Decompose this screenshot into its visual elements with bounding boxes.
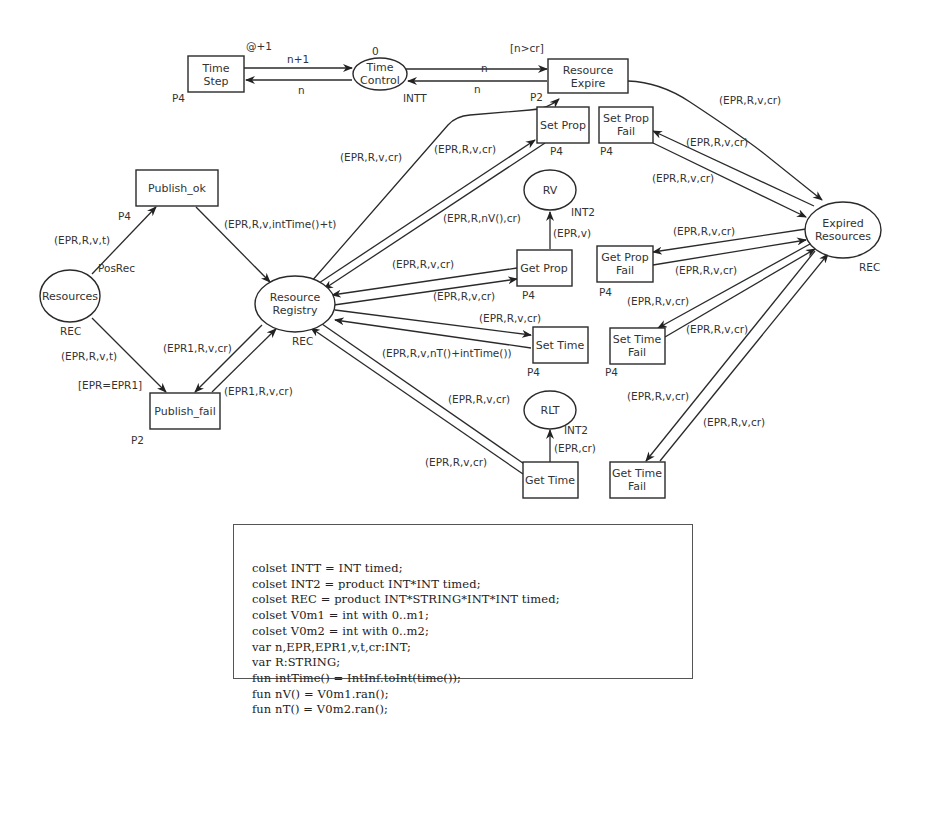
rv-label: RV [543,184,558,197]
arc-label: (EPR,R,v,cr) [652,172,714,184]
arc-label: (EPR,R,v,nT()+intTime()) [382,347,512,359]
arc-publish-fail-to-registry [212,329,276,392]
arc-label: (EPR,R,v,t) [61,350,117,362]
declaration-line: colset INTT = INT timed; [252,561,692,577]
expired-type: REC [859,261,880,273]
get-prop-fail-label: Fail [616,264,634,277]
arc-label: (EPR,R,nV(),cr) [443,212,521,224]
set-prop-fail-priority: P4 [600,145,613,157]
arc-label: (EPR,R,v,cr) [479,312,541,324]
get-prop-label: Get Prop [520,262,568,275]
declaration-line: var R:STRING; [252,655,692,671]
get-time-fail-label: Fail [628,480,646,493]
arc-label: (EPR,R,v,cr) [448,393,510,405]
declarations-box: colset INTT = INT timed; colset INT2 = p… [233,524,693,679]
expired-label: Resources [815,230,871,243]
petri-net-diagram: Time Step Time Control Resource Expire P… [0,0,928,500]
arc-label: (EPR1,R,v,cr) [224,385,293,397]
arc-label: (EPR,R,v,cr) [434,143,496,155]
set-prop-fail-label: Fail [617,125,635,138]
rv-type: INT2 [571,206,595,218]
arc-label: (EPR,R,v,t) [54,234,110,246]
arc-label: (EPR,cr) [554,442,596,454]
arc-get-prop-fail-to-expired [653,240,806,265]
set-prop-label: Set Prop [540,119,586,132]
set-time-fail-label: Set Time [613,333,662,346]
arc-label: (EPR,R,v,cr) [340,151,402,163]
set-time-priority: P4 [527,366,540,378]
set-time-fail-priority: P4 [605,366,618,378]
set-time-fail-label: Fail [628,346,646,359]
arc-label: (EPR,R,v,cr) [675,264,737,276]
get-time-label: Get Time [525,474,575,487]
get-time-fail-label: Get Time [612,467,662,480]
set-prop-fail-label: Set Prop [603,112,649,125]
resources-label: Resources [42,290,98,303]
arc-label: (EPR,R,v,cr) [703,416,765,428]
publish-fail-guard: [EPR=EPR1] [78,379,142,391]
registry-label: Registry [272,304,318,317]
publish-fail-label: Publish_fail [154,405,215,418]
resource-expire-guard: [n>cr] [510,42,544,54]
arc-label: (EPR,R,v,cr) [673,225,735,237]
arc-label: n+1 [287,53,309,65]
arc-label: (EPR,R,v,cr) [686,136,748,148]
arc-label: (EPR,R,v,cr) [719,94,781,106]
arc-label: (EPR,R,v,cr) [627,390,689,402]
declaration-line: colset INT2 = product INT*INT timed; [252,577,692,593]
get-prop-fail-priority: P4 [599,286,612,298]
declaration-line: fun nT() = V0m2.ran(); [252,702,692,718]
publish-fail-priority: P2 [131,434,144,446]
arc-label: (EPR,R,v,cr) [627,295,689,307]
arc-label: (EPR,R,v,cr) [425,456,487,468]
time-control-label: Control [360,74,400,87]
arc-label: PosRec [98,262,135,274]
time-control-label: Time [366,61,394,74]
arc-get-time-fail-to-expired [660,254,828,461]
resource-expire-label: Expire [571,77,606,90]
set-prop-priority: P4 [550,145,563,157]
resource-expire-priority: P2 [530,91,543,103]
arc-label: (EPR,R,v,intTime()+t) [224,218,336,230]
arc-expired-to-get-time-fail [646,251,815,461]
arc-registry-to-publish-fail [195,325,262,392]
registry-type: REC [292,335,313,347]
time-control-type: INTT [403,92,427,104]
time-step-label: Time [202,62,230,75]
arc-set-time-to-registry [335,320,531,348]
arc-label: (EPR,R,v,cr) [686,323,748,335]
resource-expire-label: Resource [563,64,614,77]
get-prop-priority: P4 [522,289,535,301]
arc-label: (EPR,R,v,cr) [433,290,495,302]
arc-label: (EPR1,R,v,cr) [163,342,232,354]
declaration-line: colset REC = product INT*STRING*INT*INT … [252,592,692,608]
time-control-initial: 0 [372,45,379,57]
expired-label: Expired [822,217,864,230]
arc-label: (EPR,v) [553,227,591,239]
set-time-label: Set Time [536,339,585,352]
arc-label: n [474,83,481,95]
get-prop-fail-label: Get Prop [601,251,649,264]
arc-label: n [298,84,305,96]
time-step-priority: P4 [172,92,185,104]
declaration-line: colset V0m1 = int with 0..m1; [252,608,692,624]
arc-label: n [481,62,488,74]
rlt-type: INT2 [564,424,588,436]
declaration-line: colset V0m2 = int with 0..m2; [252,624,692,640]
time-step-delay: @+1 [246,40,272,52]
time-step-label: Step [203,75,228,88]
declaration-line: fun intTime() = IntInf.toInt(time()); [252,671,692,687]
resources-type: REC [60,325,81,337]
declaration-line: var n,EPR,EPR1,v,t,cr:INT; [252,640,692,656]
rlt-label: RLT [541,404,560,417]
registry-label: Resource [270,291,321,304]
arc-label: (EPR,R,v,cr) [392,258,454,270]
publish-ok-priority: P4 [118,210,131,222]
publish-ok-label: Publish_ok [148,182,206,195]
declaration-line: fun nV() = V0m1.ran(); [252,687,692,703]
